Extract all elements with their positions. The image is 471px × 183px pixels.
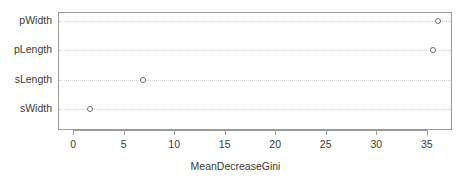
x-axis-line	[73, 130, 427, 131]
x-tick-20	[275, 130, 276, 135]
x-tick-5	[124, 130, 125, 135]
x-tick-label-5: 5	[121, 139, 127, 150]
x-axis-title: MeanDecreaseGini	[0, 161, 471, 172]
data-point-plength	[430, 47, 436, 53]
dotchart-variable-importance-plot: pWidthpLengthsLengthsWidth 0510152025303…	[0, 0, 471, 183]
gridline-slength	[59, 80, 451, 82]
x-tick-label-10: 10	[168, 139, 180, 150]
gridline-pwidth	[59, 21, 451, 23]
y-axis-label-swidth: sWidth	[20, 103, 52, 114]
x-tick-15	[225, 130, 226, 135]
gridline-plength	[59, 50, 451, 52]
x-tick-label-0: 0	[70, 139, 76, 150]
plot-panel	[58, 12, 452, 130]
x-tick-35	[427, 130, 428, 135]
x-tick-label-25: 25	[320, 139, 332, 150]
y-axis-label-pwidth: pWidth	[19, 15, 52, 26]
x-tick-30	[376, 130, 377, 135]
data-point-slength	[140, 77, 146, 83]
y-axis-category-labels: pWidthpLengthsLengthsWidth	[0, 12, 52, 130]
x-tick-label-20: 20	[269, 139, 281, 150]
gridline-swidth	[59, 109, 451, 111]
x-axis: 05101520253035	[58, 130, 452, 160]
y-axis-label-plength: pLength	[14, 44, 52, 55]
x-tick-label-15: 15	[219, 139, 231, 150]
data-point-pwidth	[435, 18, 441, 24]
y-axis-label-slength: sLength	[15, 74, 52, 85]
x-tick-25	[326, 130, 327, 135]
x-tick-label-35: 35	[421, 139, 433, 150]
data-point-swidth	[87, 106, 93, 112]
x-tick-0	[73, 130, 74, 135]
x-tick-10	[174, 130, 175, 135]
x-tick-label-30: 30	[370, 139, 382, 150]
